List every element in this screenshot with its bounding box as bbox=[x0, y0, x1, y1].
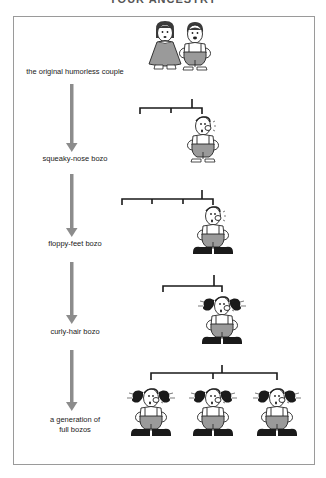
generation-arrows bbox=[66, 84, 78, 411]
curly-hair-bozo-illustration bbox=[198, 297, 246, 344]
full-bozo-1 bbox=[127, 389, 175, 436]
full-bozo-3 bbox=[253, 389, 301, 436]
full-bozos-illustration bbox=[127, 389, 301, 436]
floppy-feet-bozo-illustration bbox=[193, 207, 233, 254]
original-couple-illustration bbox=[149, 21, 211, 70]
diagram-canvas bbox=[0, 0, 326, 478]
full-bozo-2 bbox=[189, 389, 237, 436]
squeaky-nose-bozo-illustration bbox=[188, 117, 219, 162]
